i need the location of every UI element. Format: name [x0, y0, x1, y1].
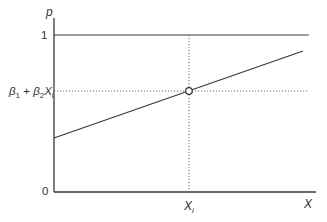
diagram-canvas: p 1 0 β1 + β2Xi Xi X [0, 0, 327, 222]
plus-sign: + [20, 85, 33, 97]
xi-subscript: i [192, 206, 194, 215]
y-tick-0: 0 [42, 185, 48, 197]
y-tick-1: 1 [41, 29, 47, 41]
y-axis-label: p [45, 5, 53, 19]
fitted-point-marker [186, 88, 193, 95]
x-tick-xi: Xi [183, 199, 194, 215]
x-subscript: i [52, 91, 54, 100]
x-axis-label: X [303, 197, 313, 211]
lpm-diagram: p 1 0 β1 + β2Xi Xi X [0, 0, 327, 222]
regression-line [54, 51, 303, 138]
fitted-value-label: β1 + β2Xi [8, 85, 54, 100]
